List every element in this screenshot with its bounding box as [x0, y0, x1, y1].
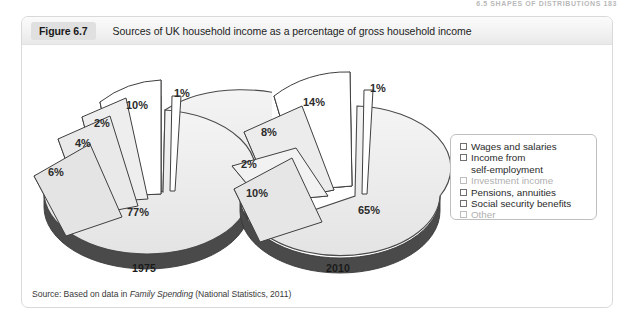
legend-item-wages[interactable]: Wages and salaries — [460, 141, 592, 152]
legend-label-pensions: Pensions, annuities — [471, 187, 556, 198]
legend-label-other: Other — [471, 209, 496, 220]
legend-label-self-employment-line2: self-employment — [471, 164, 543, 175]
page-running-head: 6.5 SHAPES OF DISTRIBUTIONS 183 — [476, 0, 617, 7]
pie-chart-2010: 1% 14% 8% 2% 10% 65% 2010 — [218, 44, 468, 282]
legend-swatch-icon — [460, 200, 467, 207]
source-prefix: Source: Based on data in — [32, 289, 130, 299]
source-suffix: (National Statistics, 2011) — [193, 289, 291, 299]
legend-swatch-icon — [460, 143, 467, 150]
figure-caption-bar: Figure 6.7 Sources of UK household incom… — [22, 17, 612, 45]
pie-2010-svg — [218, 44, 468, 282]
legend-label-wages: Wages and salaries — [471, 141, 557, 152]
year-label-2010: 2010 — [326, 262, 350, 274]
figure-container: Figure 6.7 Sources of UK household incom… — [21, 16, 613, 308]
chart-legend: Wages and salaries Income from self-empl… — [450, 134, 597, 220]
legend-swatch-icon — [460, 211, 467, 218]
legend-swatch-icon — [460, 189, 467, 196]
legend-label-social-security: Social security benefits — [471, 198, 571, 209]
legend-item-social-security[interactable]: Social security benefits — [460, 198, 592, 209]
legend-label-investment: Investment income — [471, 175, 553, 186]
legend-label-self-employment: Income from — [471, 152, 525, 163]
chart-plot-area: 1% 10% 2% 4% 6% 77% 1975 — [22, 44, 613, 282]
legend-item-self-employment[interactable]: Income from self-employment — [460, 152, 592, 175]
legend-swatch-icon — [460, 177, 467, 184]
year-label-1975: 1975 — [132, 262, 156, 274]
source-publication-title: Family Spending — [130, 289, 193, 299]
legend-item-other[interactable]: Other — [460, 209, 592, 220]
figure-source-note: Source: Based on data in Family Spending… — [32, 289, 291, 299]
legend-swatch-icon — [460, 154, 467, 161]
figure-caption-text: Sources of UK household income as a perc… — [113, 25, 472, 37]
legend-item-pensions[interactable]: Pensions, annuities — [460, 187, 592, 198]
figure-number-badge: Figure 6.7 — [31, 22, 96, 40]
legend-item-investment[interactable]: Investment income — [460, 175, 592, 186]
